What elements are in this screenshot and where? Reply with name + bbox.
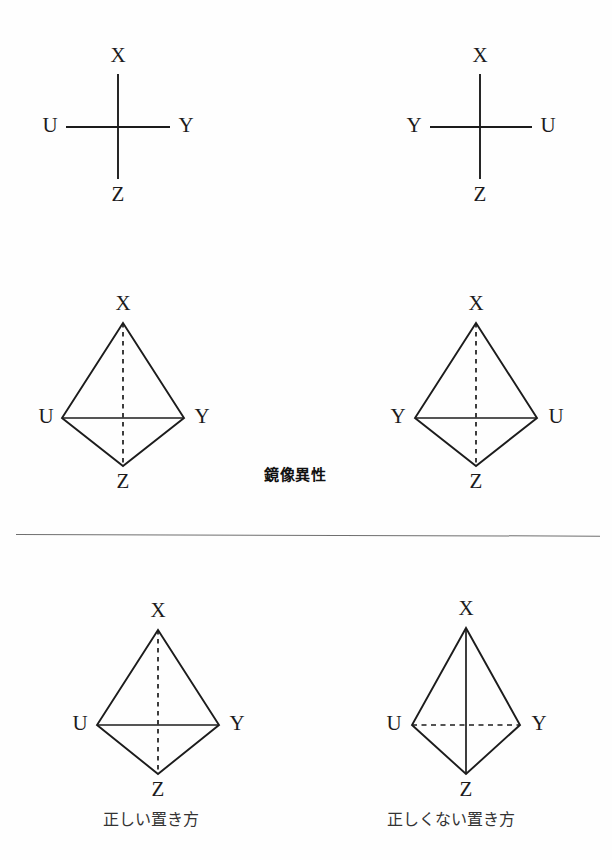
cross-left-label-top: X bbox=[110, 43, 125, 67]
figure-tetra-left: X U Y Z bbox=[44, 292, 274, 482]
cross-left-label-bottom: Z bbox=[112, 182, 125, 206]
caption-correct-placement: 正しい置き方 bbox=[103, 806, 199, 830]
cross-right-label-left: Y bbox=[406, 113, 421, 137]
tetra-incorrect-label-left: U bbox=[386, 711, 401, 735]
tetra-left-label-apex: X bbox=[115, 291, 130, 315]
tetra-right-label-apex: X bbox=[468, 291, 483, 315]
figure-tetra-right: X Y U Z bbox=[404, 292, 612, 482]
figure-cross-left: X U Y Z bbox=[38, 44, 238, 204]
caption-incorrect-placement: 正しくない置き方 bbox=[387, 806, 515, 830]
tetra-correct-label-bottom: Z bbox=[152, 777, 165, 801]
tetra-incorrect-label-right: Y bbox=[531, 711, 546, 735]
tetra-left-label-right: Y bbox=[194, 404, 209, 428]
tetra-right-label-bottom: Z bbox=[470, 469, 483, 493]
section-divider bbox=[16, 534, 600, 537]
diagram-page: X U Y Z X Y U Z X U Y Z bbox=[0, 0, 612, 860]
cross-right-label-bottom: Z bbox=[474, 182, 487, 206]
tetra-correct-label-right: Y bbox=[229, 711, 244, 735]
tetra-right-label-left: Y bbox=[390, 404, 405, 428]
figure-tetra-incorrect: X U Y Z bbox=[380, 602, 610, 792]
tetra-left-label-bottom: Z bbox=[117, 469, 130, 493]
cross-right-label-top: X bbox=[472, 43, 487, 67]
tetra-correct-label-left: U bbox=[72, 711, 87, 735]
cross-right-label-right: U bbox=[540, 113, 555, 137]
figure-tetra-correct: X U Y Z bbox=[76, 602, 306, 792]
tetra-right-label-right: U bbox=[548, 404, 563, 428]
mirror-isomerism-note: 鏡像異性 bbox=[264, 463, 326, 484]
tetra-left-label-left: U bbox=[38, 404, 53, 428]
tetra-incorrect-label-bottom: Z bbox=[460, 777, 473, 801]
tetra-correct-label-apex: X bbox=[150, 598, 165, 622]
figure-cross-right: X Y U Z bbox=[408, 44, 608, 204]
cross-left-label-right: Y bbox=[178, 113, 193, 137]
tetra-incorrect-label-apex: X bbox=[458, 596, 473, 620]
cross-left-label-left: U bbox=[42, 113, 57, 137]
